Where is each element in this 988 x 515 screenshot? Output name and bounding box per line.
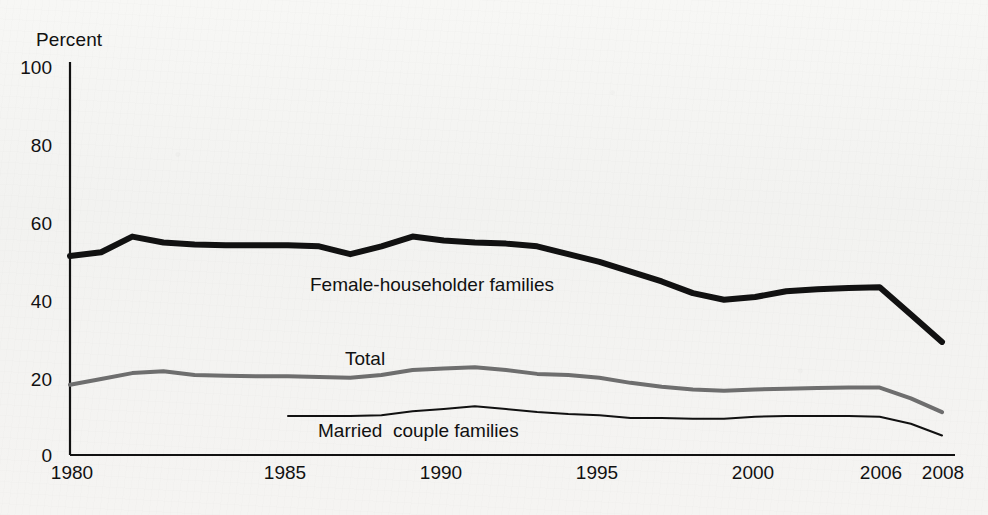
series-line-female-householder-families [70,237,942,342]
series-line-total [70,367,942,412]
series-paths [70,237,942,436]
series-line-married-couple-families [288,406,942,435]
axis-lines [70,62,955,455]
chart-figure: Percent 100 80 60 40 20 0 1980 1985 1990… [0,0,988,515]
plot-area [0,0,988,515]
